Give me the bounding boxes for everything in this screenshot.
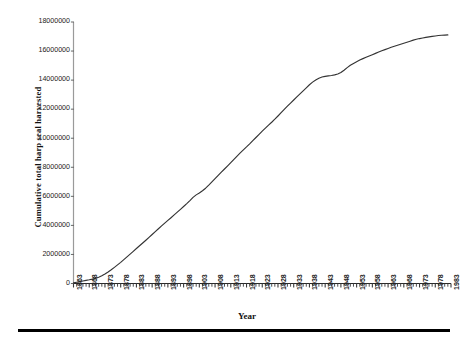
x-axis-tick-label: 1958: [375, 274, 382, 290]
x-axis-tick-label: 1973: [423, 274, 430, 290]
x-axis-tick-label: 1908: [218, 274, 225, 290]
x-axis-tick-label: 1868: [92, 274, 99, 290]
bottom-divider-rule: [18, 329, 450, 332]
x-axis-tick-labels: 1863186818731878188318881893189819031908…: [0, 0, 466, 343]
x-axis-tick-label: 1928: [281, 274, 288, 290]
x-axis-tick-label: 1978: [438, 274, 445, 290]
x-axis-tick-label: 1923: [265, 274, 272, 290]
x-axis-tick-label: 1953: [360, 274, 367, 290]
chart-container: Cumulative total harp seal harvested 020…: [0, 0, 466, 343]
x-axis-tick-label: 1883: [139, 274, 146, 290]
x-axis-tick-label: 1918: [250, 274, 257, 290]
x-axis-tick-label: 1898: [187, 274, 194, 290]
x-axis-tick-label: 1948: [344, 274, 351, 290]
x-axis-tick-label: 1933: [297, 274, 304, 290]
x-axis-title: Year: [0, 311, 466, 321]
x-axis-tick-label: 1913: [234, 274, 241, 290]
x-axis-tick-label: 1983: [454, 274, 461, 290]
x-axis-tick-label: 1963: [391, 274, 398, 290]
x-axis-tick-label: 1863: [77, 274, 84, 290]
x-axis-tick-label: 1943: [328, 274, 335, 290]
x-axis-tick-label: 1873: [108, 274, 115, 290]
x-axis-title-text: Year: [238, 311, 256, 321]
x-axis-tick-label: 1968: [407, 274, 414, 290]
x-axis-tick-label: 1878: [124, 274, 131, 290]
x-axis-tick-label: 1938: [312, 274, 319, 290]
x-axis-tick-label: 1893: [171, 274, 178, 290]
x-axis-tick-label: 1903: [202, 274, 209, 290]
x-axis-tick-label: 1888: [155, 274, 162, 290]
